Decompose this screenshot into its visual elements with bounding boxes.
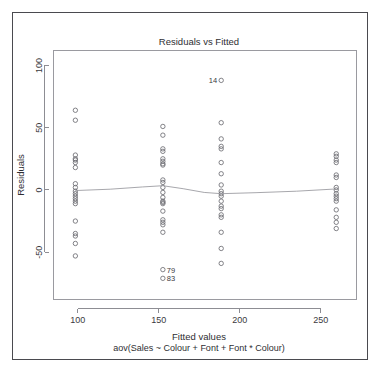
scatter-point — [219, 261, 223, 265]
lowess-trend-line — [75, 186, 336, 194]
scatter-point — [161, 124, 165, 128]
scatter-point — [161, 230, 165, 234]
scatter-point — [219, 230, 223, 234]
plot-page: Residuals vs Fitted 100150200250 -500501… — [0, 0, 382, 372]
scatter-point — [161, 133, 165, 137]
scatter-point — [219, 199, 223, 203]
point-labels: 147983 — [167, 76, 217, 283]
scatter-point — [334, 215, 338, 219]
outlier-label: 83 — [167, 274, 175, 283]
x-axis: 100150200250 — [70, 309, 328, 325]
chart-title: Residuals vs Fitted — [159, 36, 239, 47]
data-points — [73, 78, 338, 280]
y-axis-title: Residuals — [15, 154, 26, 196]
scatter-point — [161, 209, 165, 213]
scatter-point — [219, 121, 223, 125]
x-tick-label: 250 — [313, 315, 328, 325]
outlier-label: 14 — [209, 76, 217, 85]
x-tick-label: 100 — [70, 315, 85, 325]
y-axis: -50050100 — [34, 58, 49, 259]
y-tick-label: 100 — [34, 58, 44, 73]
scatter-point — [73, 241, 77, 245]
plot-panel — [54, 51, 357, 300]
residuals-vs-fitted-chart: Residuals vs Fitted 100150200250 -500501… — [0, 0, 382, 372]
y-tick-label: 0 — [34, 187, 44, 192]
trend-path — [75, 186, 336, 194]
scatter-point — [73, 219, 77, 223]
scatter-point — [219, 160, 223, 164]
scatter-point — [73, 254, 77, 258]
scatter-point — [334, 208, 338, 212]
scatter-point — [219, 183, 223, 187]
scatter-point — [219, 137, 223, 141]
outlier-label: 79 — [167, 266, 175, 275]
y-tick-label: 50 — [34, 123, 44, 133]
scatter-point — [219, 172, 223, 176]
scatter-point — [219, 246, 223, 250]
scatter-point — [73, 118, 77, 122]
x-tick-label: 200 — [232, 315, 247, 325]
x-axis-title: Fitted values — [172, 331, 226, 342]
y-tick-label: -50 — [34, 246, 44, 259]
scatter-point — [334, 226, 338, 230]
chart-subtitle: aov(Sales ~ Colour + Font + Font * Colou… — [113, 343, 284, 353]
scatter-point — [161, 276, 165, 280]
scatter-point — [73, 165, 77, 169]
x-tick-label: 150 — [151, 315, 166, 325]
scatter-point — [161, 267, 165, 271]
scatter-point — [219, 78, 223, 82]
scatter-point — [161, 190, 165, 194]
scatter-point — [73, 108, 77, 112]
scatter-point — [334, 220, 338, 224]
